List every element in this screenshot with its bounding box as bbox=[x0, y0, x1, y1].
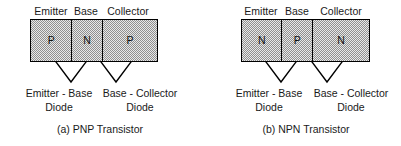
diode-caption-base-collector-line2: Diode bbox=[314, 100, 389, 114]
diode-caption-emitter-base: Emitter - Base Diode bbox=[26, 86, 93, 114]
region-type-collector: N bbox=[337, 35, 345, 46]
region-emitter: N bbox=[242, 20, 281, 61]
diode-caption-emitter-base-line2: Diode bbox=[236, 100, 303, 114]
region-type-emitter: P bbox=[48, 35, 55, 46]
diode-caption-emitter-base-line2: Diode bbox=[26, 100, 93, 114]
diode-caption-base-collector: Base - Collector Diode bbox=[103, 86, 178, 114]
figure-sheet: Emitter Base Collector P N P Emitter - B… bbox=[0, 0, 401, 146]
diode-caption-base-collector-line2: Diode bbox=[103, 100, 178, 114]
region-type-collector: P bbox=[126, 35, 133, 46]
region-collector: P bbox=[102, 20, 157, 61]
region-type-emitter: N bbox=[258, 35, 266, 46]
region-collector: N bbox=[312, 20, 369, 61]
diode-caption-emitter-base: Emitter - Base Diode bbox=[236, 86, 303, 114]
leader-emitter-base-diode bbox=[266, 62, 296, 82]
diode-caption-base-collector-line1: Base - Collector bbox=[103, 87, 178, 99]
region-label-emitter: Emitter bbox=[34, 5, 67, 18]
region-base: N bbox=[71, 20, 102, 61]
region-label-base: Base bbox=[74, 5, 98, 18]
region-type-base: P bbox=[294, 35, 301, 46]
region-label-collector: Collector bbox=[107, 5, 148, 18]
region-base: P bbox=[281, 20, 312, 61]
region-label-emitter: Emitter bbox=[244, 5, 277, 18]
figure-caption-pnp: (a) PNP Transistor bbox=[57, 122, 143, 136]
leader-emitter-base-diode bbox=[56, 62, 86, 82]
figure-caption-npn: (b) NPN Transistor bbox=[263, 122, 350, 136]
transistor-cross-section-pnp: P N P bbox=[30, 19, 158, 62]
diode-caption-base-collector-line1: Base - Collector bbox=[314, 87, 389, 99]
figure-pnp-transistor: Emitter Base Collector P N P Emitter - B… bbox=[0, 0, 200, 146]
region-label-collector: Collector bbox=[320, 5, 361, 18]
figure-npn-transistor: Emitter Base Collector N P N Emitter - B… bbox=[200, 0, 401, 146]
region-type-base: N bbox=[83, 35, 91, 46]
region-emitter: P bbox=[31, 20, 71, 61]
diode-caption-emitter-base-line1: Emitter - Base bbox=[26, 87, 93, 99]
leader-base-collector-diode bbox=[312, 62, 342, 82]
leader-base-collector-diode bbox=[101, 62, 131, 82]
diode-caption-base-collector: Base - Collector Diode bbox=[314, 86, 389, 114]
transistor-cross-section-npn: N P N bbox=[241, 19, 370, 62]
diode-caption-emitter-base-line1: Emitter - Base bbox=[236, 87, 303, 99]
region-label-base: Base bbox=[285, 5, 309, 18]
